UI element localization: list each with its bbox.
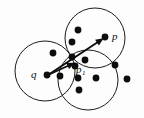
left-circle <box>15 41 75 101</box>
point-p <box>102 34 109 41</box>
point-j <box>112 62 119 69</box>
point-d <box>69 54 76 61</box>
point-i <box>76 87 83 94</box>
point-k <box>124 76 131 83</box>
point-a <box>75 27 82 34</box>
point-e <box>82 57 89 64</box>
point-b <box>69 39 76 46</box>
point-g <box>75 75 82 82</box>
label-q: q <box>31 68 37 80</box>
point-f <box>57 73 64 80</box>
point-c <box>50 50 57 57</box>
point-q <box>44 72 51 79</box>
figure-container: pqp1 <box>0 0 144 118</box>
point-h <box>93 75 100 82</box>
label-p: p <box>111 30 118 42</box>
vector-q-to-p-arrowhead <box>95 38 104 45</box>
label-p1-subscript: 1 <box>82 69 86 77</box>
geometry-diagram: pqp1 <box>0 0 144 118</box>
